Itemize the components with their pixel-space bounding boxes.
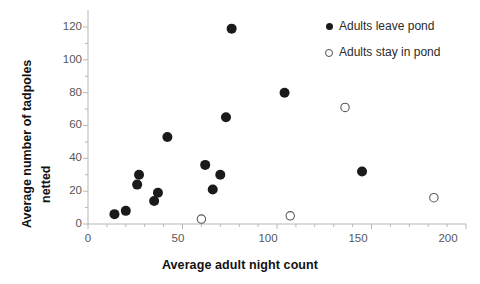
y-axis-ticks — [83, 27, 88, 224]
data-point — [357, 166, 367, 176]
x-axis-ticks — [88, 224, 466, 229]
plot-area — [0, 0, 480, 284]
data-point — [109, 209, 119, 219]
data-point — [221, 112, 231, 122]
axis-lines — [88, 10, 466, 224]
series-adults-leave-pond — [109, 24, 367, 220]
data-point — [134, 170, 144, 180]
scatter-chart: Average number of tadpoles netted 120 10… — [0, 0, 480, 284]
series-adults-stay-in-pond — [197, 103, 438, 223]
data-point — [153, 188, 163, 198]
data-point — [227, 24, 237, 34]
data-point — [121, 206, 131, 216]
data-point — [162, 132, 172, 142]
data-point — [132, 180, 142, 190]
data-point — [197, 215, 205, 223]
data-point — [341, 103, 349, 111]
data-point — [208, 185, 218, 195]
data-point — [200, 160, 210, 170]
data-point — [430, 194, 438, 202]
data-point — [286, 212, 294, 220]
data-point — [280, 88, 290, 98]
data-point — [215, 170, 225, 180]
